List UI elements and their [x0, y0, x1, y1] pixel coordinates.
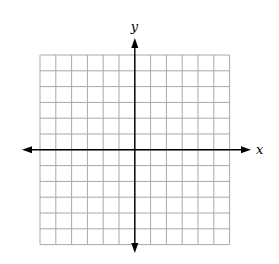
y-axis-label: y	[130, 19, 139, 34]
x-axis-label: x	[256, 142, 264, 157]
arrow-up-icon	[131, 38, 138, 48]
axes	[22, 38, 251, 253]
coordinate-plane: x y	[0, 0, 279, 264]
arrow-right-icon	[241, 146, 251, 153]
arrow-down-icon	[131, 243, 138, 253]
arrow-left-icon	[22, 146, 32, 153]
